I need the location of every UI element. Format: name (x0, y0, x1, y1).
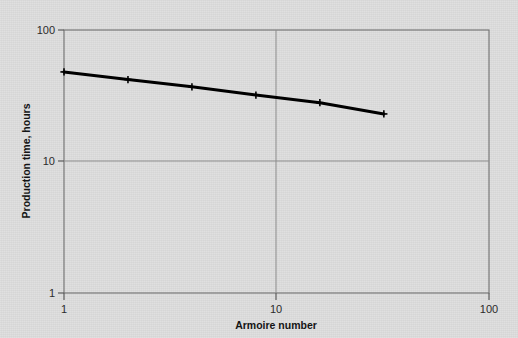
ytick-label-1: 1 (49, 287, 55, 299)
ytick-label-100: 100 (37, 24, 55, 36)
xtick-label-100: 100 (480, 303, 498, 315)
y-axis-title: Production time, hours (20, 103, 32, 218)
xtick-label-1: 1 (61, 303, 67, 315)
data-series-production-time (60, 68, 387, 117)
data-point (252, 91, 259, 98)
data-point (124, 76, 131, 83)
data-point (188, 83, 195, 90)
data-point (60, 68, 67, 75)
data-point (380, 110, 387, 117)
log-log-chart: 100 10 1 1 10 100 Armoire number Product… (0, 0, 518, 338)
chart-figure: 100 10 1 1 10 100 Armoire number Product… (0, 0, 518, 338)
series-line (64, 72, 384, 114)
ytick-label-10: 10 (43, 155, 55, 167)
xtick-label-10: 10 (270, 303, 282, 315)
x-axis-title: Armoire number (235, 319, 317, 331)
plot-grid (64, 30, 489, 293)
axis-ticks (58, 30, 489, 300)
data-point (316, 99, 323, 106)
